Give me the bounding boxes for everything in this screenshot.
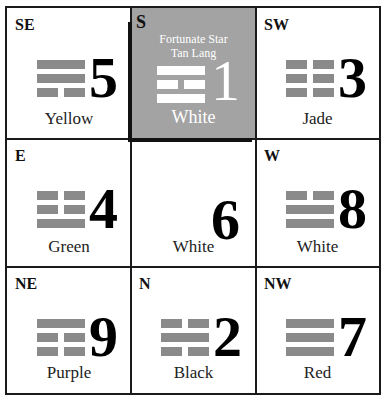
color-label: White [256, 237, 379, 257]
grid-divider [255, 8, 257, 393]
solid-line-icon [286, 219, 334, 228]
solid-line-icon [286, 205, 334, 214]
solid-line-icon [157, 66, 205, 75]
solid-line-icon [37, 319, 85, 328]
star-number: 2 [213, 308, 242, 366]
direction-label: NE [15, 275, 37, 293]
cell-center: 6White [131, 139, 256, 267]
star-number: 1 [211, 52, 240, 110]
broken-line-icon [286, 60, 334, 69]
star-name-label: Fortunate Star [131, 32, 256, 46]
solid-line-icon [286, 319, 334, 328]
broken-line-icon [37, 333, 85, 342]
trigram-icon [37, 60, 85, 98]
star-number: 8 [338, 180, 367, 238]
cell-ne: NE9Purple [7, 267, 131, 393]
solid-line-icon [161, 333, 209, 342]
cell-sw: SW3Jade [256, 8, 379, 139]
trigram-icon [37, 319, 85, 357]
trigram-icon [286, 60, 334, 98]
trigram-icon [157, 66, 205, 104]
trigram-icon [37, 191, 85, 229]
broken-line-icon [286, 74, 334, 83]
solid-line-icon [157, 94, 205, 103]
trigram-icon [161, 319, 209, 357]
highlight-shadow [128, 138, 252, 142]
broken-line-icon [286, 191, 334, 200]
color-label: White [131, 107, 256, 128]
color-label: Red [256, 363, 379, 383]
broken-line-icon [286, 88, 334, 97]
color-label: White [131, 237, 256, 257]
cell-n: N2Black [131, 267, 256, 393]
color-label: Jade [256, 109, 379, 129]
cell-se: SE5Yellow [7, 8, 131, 139]
solid-line-icon [37, 60, 85, 69]
trigram-icon [286, 191, 334, 229]
grid-divider [7, 266, 379, 268]
broken-line-icon [37, 347, 85, 356]
solid-line-icon [286, 347, 334, 356]
direction-label: N [139, 275, 151, 293]
direction-label: E [15, 147, 26, 165]
solid-line-icon [286, 333, 334, 342]
broken-line-icon [37, 191, 85, 200]
color-label: Green [7, 237, 131, 257]
star-number: 7 [338, 308, 367, 366]
broken-line-icon [37, 205, 85, 214]
cell-w: W8White [256, 139, 379, 267]
cell-nw: NW7Red [256, 267, 379, 393]
cell-s: SFortunate StarTan Lang1White [131, 8, 256, 139]
cell-e: E4Green [7, 139, 131, 267]
broken-line-icon [157, 80, 205, 89]
color-label: Black [131, 363, 256, 383]
trigram-icon [286, 319, 334, 357]
broken-line-icon [37, 88, 85, 97]
star-number: 9 [89, 308, 118, 366]
color-label: Purple [7, 363, 131, 383]
direction-label: SW [264, 16, 289, 34]
direction-label: NW [264, 275, 292, 293]
direction-label: W [264, 147, 280, 165]
star-number: 4 [89, 180, 118, 238]
star-number: 3 [338, 49, 367, 107]
solid-line-icon [37, 219, 85, 228]
direction-label: S [136, 12, 146, 33]
color-label: Yellow [7, 109, 131, 129]
broken-line-icon [161, 319, 209, 328]
highlight-shadow [128, 22, 132, 142]
solid-line-icon [37, 74, 85, 83]
broken-line-icon [161, 347, 209, 356]
bagua-grid: SE5YellowSFortunate StarTan Lang1WhiteSW… [5, 6, 381, 395]
direction-label: SE [15, 16, 35, 34]
star-number: 5 [89, 49, 118, 107]
